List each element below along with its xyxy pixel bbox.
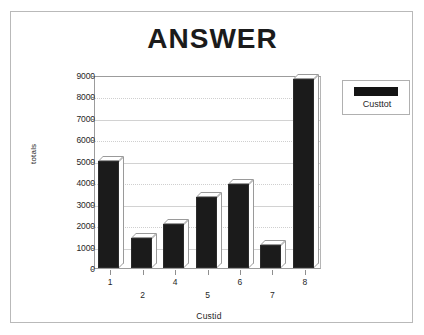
- y-tick-label: 6000: [55, 135, 95, 145]
- bar-2[interactable]: [131, 233, 152, 268]
- legend-label-custtot: Custtot: [343, 99, 411, 109]
- y-tick-mark: [90, 162, 94, 163]
- x-tick-mark: [175, 270, 176, 275]
- y-tick-label: 0: [55, 264, 95, 274]
- y-tick-mark: [90, 183, 94, 184]
- x-tick-mark: [143, 270, 144, 275]
- y-tick-label: 8000: [55, 92, 95, 102]
- gridline: [95, 98, 320, 99]
- chart-legend: Custtot: [342, 80, 410, 115]
- bar-1[interactable]: [98, 156, 119, 268]
- x-tick-label: 2: [131, 290, 155, 300]
- y-axis-title: totals: [29, 144, 38, 164]
- y-tick-mark: [90, 205, 94, 206]
- y-tick-label: 9000: [55, 71, 95, 81]
- bar-side-face: [314, 74, 319, 268]
- bar-6[interactable]: [228, 179, 249, 268]
- gridline: [95, 141, 320, 142]
- chart-frame: ANSWER totals Custid 0100020003000400050…: [10, 11, 413, 323]
- x-tick-label: 1: [98, 277, 122, 287]
- bar-side-face: [119, 156, 124, 268]
- chart-title: ANSWER: [11, 25, 414, 53]
- gridline: [95, 120, 320, 121]
- x-tick-label: 7: [260, 290, 284, 300]
- x-tick-mark: [240, 270, 241, 275]
- bar-front-face: [196, 197, 217, 268]
- x-tick-mark: [208, 270, 209, 275]
- x-tick-label: 5: [196, 290, 220, 300]
- y-tick-mark: [90, 119, 94, 120]
- y-tick-mark: [90, 97, 94, 98]
- y-tick-label: 1000: [55, 243, 95, 253]
- x-tick-label: 4: [163, 277, 187, 287]
- gridline: [95, 163, 320, 164]
- y-tick-mark: [90, 76, 94, 77]
- legend-swatch-custtot: [354, 87, 398, 96]
- bar-7[interactable]: [260, 240, 281, 268]
- bar-front-face: [131, 238, 152, 268]
- bar-4[interactable]: [163, 219, 184, 268]
- y-tick-mark: [90, 248, 94, 249]
- y-tick-label: 5000: [55, 157, 95, 167]
- y-tick-mark: [90, 140, 94, 141]
- y-tick-label: 3000: [55, 200, 95, 210]
- y-tick-mark: [90, 226, 94, 227]
- bar-side-face: [217, 192, 222, 268]
- x-tick-label: 6: [228, 277, 252, 287]
- gridline: [95, 184, 320, 185]
- x-axis-title: Custid: [94, 311, 324, 321]
- bar-side-face: [184, 219, 189, 268]
- x-tick-mark: [110, 270, 111, 275]
- bar-side-face: [249, 179, 254, 268]
- x-tick-label: 8: [293, 277, 317, 287]
- bar-front-face: [228, 184, 249, 268]
- bar-5[interactable]: [196, 192, 217, 268]
- bar-8[interactable]: [293, 74, 314, 268]
- bar-front-face: [260, 245, 281, 268]
- bar-front-face: [98, 161, 119, 268]
- plot-area: [94, 76, 321, 269]
- bar-front-face: [163, 224, 184, 268]
- y-tick-label: 2000: [55, 221, 95, 231]
- bar-side-face: [281, 240, 286, 268]
- y-tick-label: 7000: [55, 114, 95, 124]
- x-tick-mark: [305, 270, 306, 275]
- bar-front-face: [293, 79, 314, 268]
- x-tick-mark: [272, 270, 273, 275]
- y-tick-mark: [90, 269, 94, 270]
- bar-side-face: [152, 233, 157, 268]
- y-tick-label: 4000: [55, 178, 95, 188]
